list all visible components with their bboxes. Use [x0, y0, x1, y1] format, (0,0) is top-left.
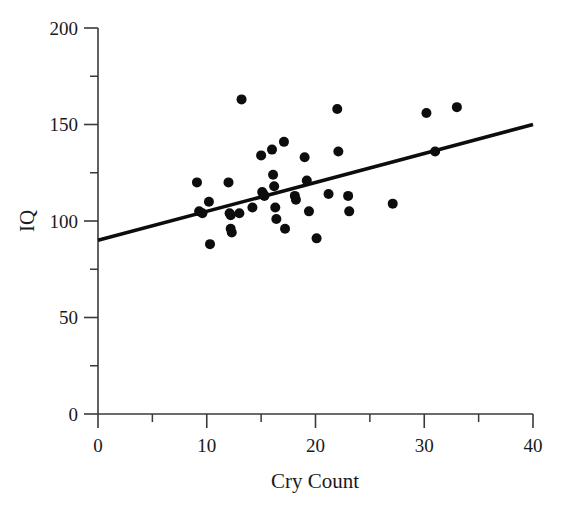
data-point	[270, 202, 280, 212]
data-point	[452, 102, 462, 112]
data-point	[388, 199, 398, 209]
y-tick-label: 100	[50, 211, 79, 232]
data-point	[247, 202, 257, 212]
y-tick-label: 50	[59, 307, 78, 328]
x-tick-label: 10	[197, 435, 216, 456]
data-point	[234, 208, 244, 218]
data-point	[237, 94, 247, 104]
x-tick-label: 30	[415, 435, 434, 456]
data-point	[256, 150, 266, 160]
data-point	[269, 181, 279, 191]
data-point	[430, 147, 440, 157]
data-point	[304, 206, 314, 216]
data-point	[268, 170, 278, 180]
chart-canvas: 050100150200 010203040 Cry Count IQ	[0, 0, 568, 505]
y-tick-label: 200	[50, 18, 79, 39]
data-point	[343, 191, 353, 201]
data-point	[421, 108, 431, 118]
data-point	[224, 177, 234, 187]
data-point	[259, 191, 269, 201]
data-point	[227, 228, 237, 238]
x-axis-title: Cry Count	[271, 469, 359, 493]
data-point	[302, 175, 312, 185]
data-point	[192, 177, 202, 187]
data-point	[279, 137, 289, 147]
data-point	[333, 147, 343, 157]
data-point	[271, 214, 281, 224]
y-axis-title: IQ	[15, 210, 39, 232]
chart-background	[0, 0, 568, 505]
data-point	[204, 197, 214, 207]
data-point	[344, 206, 354, 216]
data-point	[291, 195, 301, 205]
y-tick-label: 0	[69, 404, 79, 425]
data-point	[332, 104, 342, 114]
data-point	[280, 224, 290, 234]
data-point	[205, 239, 215, 249]
data-point	[324, 189, 334, 199]
data-point	[197, 208, 207, 218]
data-point	[312, 233, 322, 243]
data-point	[267, 145, 277, 155]
data-point	[300, 152, 310, 162]
data-point	[226, 210, 236, 220]
scatter-plot-figure: 050100150200 010203040 Cry Count IQ	[0, 0, 568, 505]
y-tick-label: 150	[50, 114, 79, 135]
x-tick-label: 40	[524, 435, 543, 456]
x-tick-label: 20	[306, 435, 325, 456]
x-tick-label: 0	[93, 435, 103, 456]
